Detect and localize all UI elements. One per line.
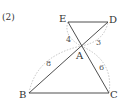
length-EA: 4 (66, 35, 71, 44)
segment-EC (68, 22, 109, 93)
label-A: A (75, 50, 84, 61)
geometry-figure: (2) E D A B C 4 3 8 6 (0, 0, 129, 104)
length-AD: 3 (96, 38, 101, 47)
length-BA: 8 (46, 59, 51, 68)
label-E: E (59, 13, 66, 24)
label-B: B (19, 89, 26, 100)
problem-number: (2) (2, 12, 15, 22)
segments (29, 22, 109, 93)
label-D: D (109, 14, 117, 25)
segment-DB (29, 22, 108, 93)
length-AC: 6 (99, 63, 104, 72)
label-C: C (110, 89, 118, 100)
